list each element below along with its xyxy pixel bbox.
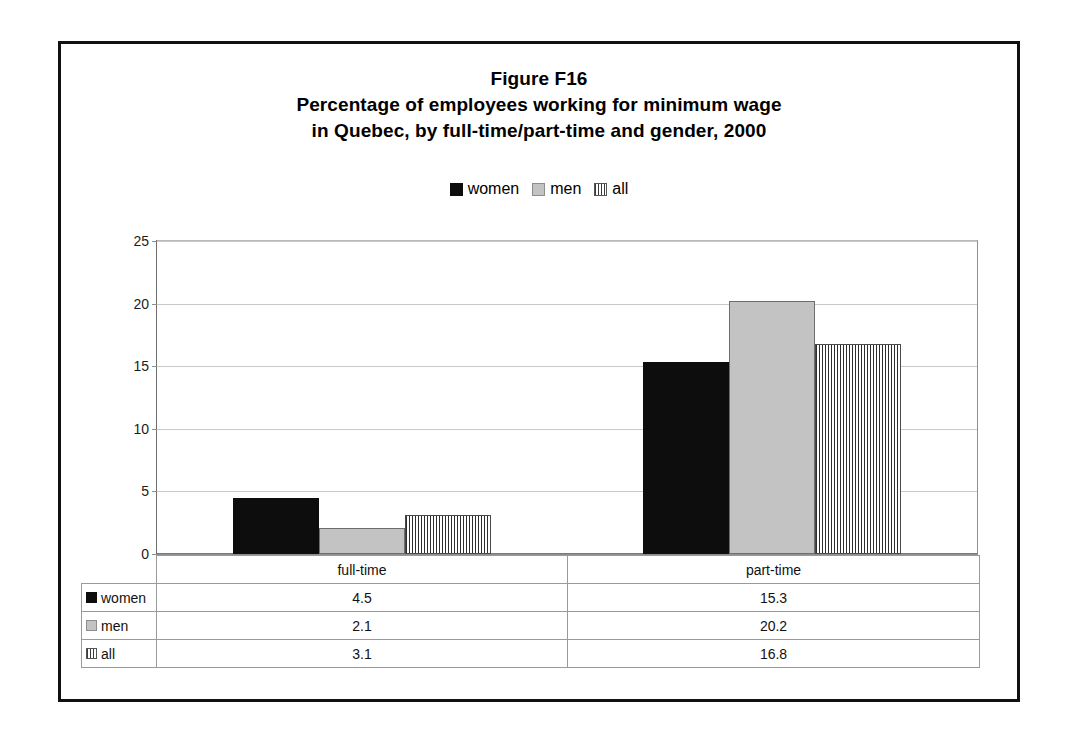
table-row: all 3.1 16.8 <box>82 640 980 668</box>
cell-women-full-time: 4.5 <box>157 584 568 612</box>
y-tick-label: 15 <box>133 358 149 374</box>
vertical-stripe-square-icon <box>594 183 607 196</box>
vertical-stripe-square-icon <box>86 648 97 659</box>
figure-frame: Figure F16 Percentage of employees worki… <box>58 41 1020 702</box>
solid-black-square-icon <box>450 183 463 196</box>
row-label-all: all <box>82 640 157 668</box>
y-tick-label: 20 <box>133 296 149 312</box>
row-label-text: all <box>101 646 115 662</box>
bar-all-full-time <box>405 515 491 554</box>
bar-women-full-time <box>233 498 319 554</box>
column-header-full-time: full-time <box>157 556 568 584</box>
cell-men-part-time: 20.2 <box>568 612 980 640</box>
y-tick-label: 25 <box>133 233 149 249</box>
legend-item-women: women <box>450 180 520 198</box>
solid-black-square-icon <box>86 592 97 603</box>
legend-item-all: all <box>594 180 628 198</box>
cell-all-full-time: 3.1 <box>157 640 568 668</box>
bar-men-part-time <box>729 301 815 554</box>
bar-women-part-time <box>643 362 729 554</box>
y-tick-label: 10 <box>133 421 149 437</box>
table-row: women 4.5 15.3 <box>82 584 980 612</box>
table-corner-cell <box>82 556 157 584</box>
table-row: men 2.1 20.2 <box>82 612 980 640</box>
row-label-women: women <box>82 584 157 612</box>
title-line-3: in Quebec, by full-time/part-time and ge… <box>61 118 1017 144</box>
legend-label-all: all <box>612 180 628 198</box>
page-title: Figure F16 Percentage of employees worki… <box>61 66 1017 144</box>
legend-item-men: men <box>532 180 581 198</box>
bar-group-full-time <box>157 241 567 554</box>
data-table: full-time part-time women 4.5 15.3 m <box>81 555 980 668</box>
title-line-2: Percentage of employees working for mini… <box>61 92 1017 118</box>
legend-label-women: women <box>468 180 520 198</box>
title-line-1: Figure F16 <box>61 66 1017 92</box>
row-label-text: men <box>101 618 128 634</box>
chart-legend: women men all <box>61 180 1017 198</box>
cell-men-full-time: 2.1 <box>157 612 568 640</box>
y-tick-label: 5 <box>141 483 149 499</box>
cell-women-part-time: 15.3 <box>568 584 980 612</box>
solid-gray-square-icon <box>532 183 545 196</box>
bar-group-part-time <box>567 241 977 554</box>
plot-area: 0510152025 <box>156 240 978 555</box>
solid-gray-square-icon <box>86 620 97 631</box>
legend-label-men: men <box>550 180 581 198</box>
column-header-part-time: part-time <box>568 556 980 584</box>
bar-all-part-time <box>815 344 901 554</box>
cell-all-part-time: 16.8 <box>568 640 980 668</box>
bar-men-full-time <box>319 528 405 554</box>
row-label-men: men <box>82 612 157 640</box>
table-header-row: full-time part-time <box>82 556 980 584</box>
row-label-text: women <box>101 590 146 606</box>
